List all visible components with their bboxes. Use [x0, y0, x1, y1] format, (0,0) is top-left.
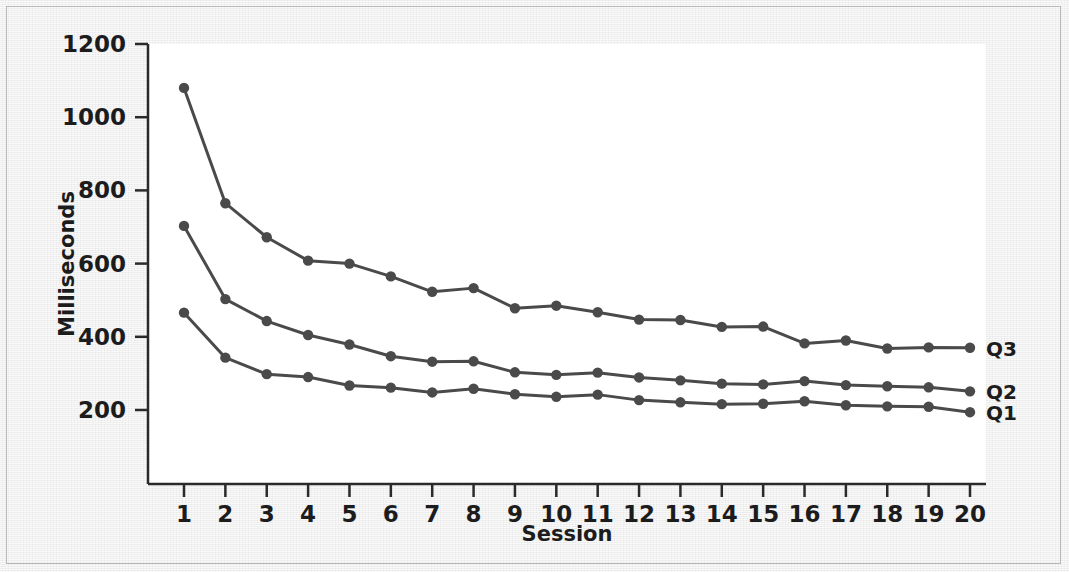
data-point — [179, 221, 189, 231]
data-point — [386, 271, 396, 281]
data-point — [386, 351, 396, 361]
data-point — [344, 258, 354, 268]
data-point — [634, 314, 644, 324]
x-tick-label: 18 — [871, 501, 903, 527]
data-point — [220, 352, 230, 362]
data-point — [303, 255, 313, 265]
x-tick-label: 4 — [300, 501, 316, 527]
y-axis-title: Milliseconds — [55, 191, 79, 337]
data-point — [468, 384, 478, 394]
data-point — [468, 283, 478, 293]
data-point — [675, 397, 685, 407]
data-point — [799, 396, 809, 406]
data-point — [510, 389, 520, 399]
data-point — [427, 356, 437, 366]
data-point — [799, 338, 809, 348]
data-point — [510, 367, 520, 377]
data-point — [344, 339, 354, 349]
x-tick-label: 19 — [913, 501, 945, 527]
data-point — [592, 367, 602, 377]
data-point — [758, 321, 768, 331]
x-axis-title: Session — [522, 522, 613, 546]
data-point — [841, 380, 851, 390]
x-tick-label: 1 — [176, 501, 192, 527]
line-chart: 20040060080010001200 1234567891011121314… — [0, 0, 1069, 572]
data-point — [344, 380, 354, 390]
x-tick-label: 13 — [664, 501, 696, 527]
data-point — [882, 343, 892, 353]
data-point — [923, 382, 933, 392]
data-point — [923, 402, 933, 412]
data-point — [220, 198, 230, 208]
data-point — [592, 307, 602, 317]
x-tick-label: 2 — [217, 501, 233, 527]
data-point — [468, 356, 478, 366]
data-point — [220, 294, 230, 304]
data-point — [841, 400, 851, 410]
data-point — [551, 300, 561, 310]
data-point — [882, 401, 892, 411]
series-end-labels: Q3Q2Q1 — [986, 337, 1017, 425]
data-point — [675, 315, 685, 325]
data-point — [841, 335, 851, 345]
data-point — [592, 389, 602, 399]
data-point — [427, 387, 437, 397]
data-point — [262, 316, 272, 326]
x-tick-label: 3 — [259, 501, 275, 527]
series-label-q1: Q1 — [986, 401, 1017, 425]
y-tick-label: 1000 — [62, 104, 126, 130]
data-point — [675, 375, 685, 385]
data-point — [717, 322, 727, 332]
data-point — [717, 378, 727, 388]
data-point — [551, 370, 561, 380]
data-point — [510, 303, 520, 313]
data-point — [386, 382, 396, 392]
data-point — [427, 287, 437, 297]
y-tick-label: 1200 — [62, 31, 126, 57]
data-point — [758, 379, 768, 389]
data-point — [262, 369, 272, 379]
data-point — [262, 232, 272, 242]
data-point — [303, 372, 313, 382]
x-tick-label: 14 — [706, 501, 738, 527]
data-point — [965, 386, 975, 396]
data-point — [758, 399, 768, 409]
y-tick-label: 800 — [78, 177, 126, 203]
data-point — [965, 407, 975, 417]
data-point — [303, 330, 313, 340]
data-point — [717, 399, 727, 409]
figure-container: 20040060080010001200 1234567891011121314… — [0, 0, 1069, 572]
x-axis-ticks: 1234567891011121314151617181920 — [176, 484, 986, 527]
data-point — [923, 342, 933, 352]
x-tick-label: 12 — [623, 501, 655, 527]
y-tick-label: 400 — [78, 324, 126, 350]
data-point — [634, 395, 644, 405]
y-tick-label: 200 — [78, 397, 126, 423]
x-tick-label: 5 — [341, 501, 357, 527]
x-tick-label: 8 — [466, 501, 482, 527]
x-tick-label: 16 — [789, 501, 821, 527]
data-point — [551, 392, 561, 402]
data-point — [634, 372, 644, 382]
data-point — [179, 83, 189, 93]
plot-area-background — [148, 44, 986, 484]
series-label-q3: Q3 — [986, 337, 1017, 361]
data-point — [882, 381, 892, 391]
x-tick-label: 15 — [747, 501, 779, 527]
x-tick-label: 6 — [383, 501, 399, 527]
x-tick-label: 20 — [954, 501, 986, 527]
y-tick-label: 600 — [78, 251, 126, 277]
data-point — [965, 343, 975, 353]
x-tick-label: 17 — [830, 501, 862, 527]
x-tick-label: 7 — [424, 501, 440, 527]
data-point — [799, 376, 809, 386]
data-point — [179, 307, 189, 317]
